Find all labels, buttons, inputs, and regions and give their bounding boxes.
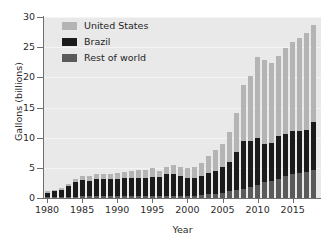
bar-segment-united-states <box>115 173 120 178</box>
y-tick <box>37 17 43 18</box>
bar-segment-united-states <box>185 168 190 178</box>
bar-segment-brazil <box>52 191 57 197</box>
bar-segment-united-states <box>276 56 281 136</box>
y-tick <box>37 168 43 169</box>
bar-segment-united-states <box>220 144 225 168</box>
bar-1984 <box>73 179 78 198</box>
bar-1993 <box>136 170 141 198</box>
bar-segment-brazil <box>241 141 246 189</box>
bar-segment-brazil <box>122 178 127 196</box>
y-axis-line <box>43 16 44 199</box>
bar-1980 <box>45 191 50 198</box>
bar-segment-brazil <box>220 167 225 192</box>
bar-1988 <box>101 174 106 198</box>
bar-1989 <box>108 174 113 198</box>
bar-segment-brazil <box>94 179 99 196</box>
bar-1996 <box>157 171 162 198</box>
x-axis-title: Year <box>44 224 321 235</box>
bar-segment-rest-of-world <box>234 190 239 198</box>
x-tick <box>82 198 83 203</box>
bar-2009 <box>248 76 253 198</box>
bar-1999 <box>178 167 183 198</box>
y-tick <box>37 198 43 199</box>
x-tick <box>117 198 118 203</box>
bar-1981 <box>52 190 57 198</box>
bar-segment-united-states <box>122 172 127 178</box>
bar-2002 <box>199 163 204 198</box>
bar-segment-united-states <box>129 171 134 178</box>
x-tick-label: 1990 <box>97 205 137 215</box>
y-tick-label: 5 <box>0 163 35 173</box>
legend-label: United States <box>84 21 148 31</box>
bar-2013 <box>276 56 281 198</box>
bar-segment-brazil <box>213 171 218 194</box>
bar-segment-brazil <box>66 186 71 197</box>
bar-segment-united-states <box>213 150 218 171</box>
x-tick-label: 2015 <box>273 205 313 215</box>
bar-segment-united-states <box>311 25 316 122</box>
legend-item: United States <box>62 19 148 32</box>
bar-segment-brazil <box>269 143 274 181</box>
bar-segment-brazil <box>290 131 295 174</box>
bar-segment-brazil <box>178 176 183 196</box>
bar-segment-united-states <box>304 33 309 130</box>
bar-segment-brazil <box>73 182 78 197</box>
bar-segment-brazil <box>206 173 211 195</box>
bar-segment-united-states <box>108 174 113 179</box>
bar-segment-united-states <box>164 167 169 175</box>
bar-segment-united-states <box>255 57 260 137</box>
bar-segment-united-states <box>87 176 92 181</box>
bar-segment-brazil <box>115 179 120 196</box>
bar-2016 <box>297 38 302 198</box>
legend-swatch <box>62 54 77 62</box>
bar-2001 <box>192 167 197 198</box>
bar-segment-rest-of-world <box>248 187 253 198</box>
bar-segment-rest-of-world <box>290 174 295 198</box>
x-tick <box>47 198 48 203</box>
bar-segment-united-states <box>66 184 71 186</box>
ethanol-production-chart: 051015202530 198019851990199520002005201… <box>0 0 327 243</box>
bar-2008 <box>241 85 246 198</box>
bar-1987 <box>94 174 99 198</box>
bar-segment-rest-of-world <box>262 182 267 198</box>
bar-2005 <box>220 144 225 198</box>
x-tick <box>187 198 188 203</box>
bar-1992 <box>129 171 134 198</box>
bar-segment-brazil <box>171 174 176 196</box>
x-tick <box>258 198 259 203</box>
chart-legend: United StatesBrazilRest of world <box>62 19 148 67</box>
bar-2014 <box>283 48 288 198</box>
bar-segment-united-states <box>52 190 57 191</box>
x-tick <box>223 198 224 203</box>
bar-segment-united-states <box>45 191 50 192</box>
bar-1994 <box>143 170 148 198</box>
bar-1990 <box>115 173 120 198</box>
bar-1985 <box>80 176 85 198</box>
x-tick-label: 1980 <box>27 205 67 215</box>
bar-segment-united-states <box>80 176 85 180</box>
bar-1991 <box>122 172 127 198</box>
bar-segment-united-states <box>283 48 288 134</box>
y-tick-label: 0 <box>0 193 35 203</box>
bar-segment-rest-of-world <box>241 189 246 198</box>
bar-2000 <box>185 168 190 198</box>
bar-1982 <box>59 188 64 198</box>
bar-1998 <box>171 165 176 198</box>
bar-2015 <box>290 42 295 198</box>
bar-segment-united-states <box>157 171 162 177</box>
bar-segment-united-states <box>297 38 302 131</box>
bar-segment-brazil <box>199 176 204 195</box>
bar-segment-united-states <box>59 188 64 189</box>
bar-segment-united-states <box>94 174 99 179</box>
x-tick-label: 1995 <box>132 205 172 215</box>
bar-segment-brazil <box>157 177 162 196</box>
legend-label: Brazil <box>84 37 111 47</box>
bar-segment-united-states <box>241 85 246 141</box>
bar-segment-rest-of-world <box>255 185 260 198</box>
bar-segment-united-states <box>248 76 253 142</box>
bar-segment-united-states <box>178 167 183 176</box>
bar-2004 <box>213 150 218 198</box>
bar-segment-united-states <box>227 132 232 162</box>
bar-2018 <box>311 25 316 198</box>
bar-segment-brazil <box>227 162 232 192</box>
